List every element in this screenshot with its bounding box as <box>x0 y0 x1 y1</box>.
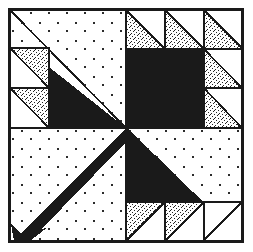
stipple-tr-top-3 <box>204 10 242 49</box>
stipple-br-bot-1 <box>126 202 165 241</box>
stipple-br-bot-3 <box>204 202 242 241</box>
quadrant-top-right <box>126 10 242 128</box>
dark-square-top-right <box>126 49 205 128</box>
stipple-tl-upper <box>10 48 49 88</box>
stipple-br-bot-2 <box>165 202 204 241</box>
stipple-tr-top-1 <box>126 10 165 49</box>
stipple-tr-side-1 <box>204 49 242 88</box>
stipple-tl-lower <box>10 88 49 128</box>
stipple-tr-top-2 <box>165 10 204 49</box>
stipple-tr-side-2 <box>204 88 242 128</box>
quilt-block-diagram <box>0 0 253 252</box>
figure-canvas <box>0 0 253 252</box>
